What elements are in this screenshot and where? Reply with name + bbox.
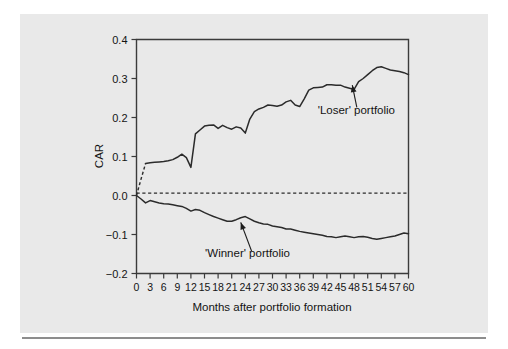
- x-tick-label: 45: [335, 281, 347, 293]
- y-tick-labels: −0.2−0.10.00.10.20.30.4: [106, 34, 128, 280]
- series-group: [137, 67, 409, 239]
- x-tick-label: 15: [199, 281, 211, 293]
- x-tick-label: 54: [375, 281, 387, 293]
- x-tick-label: 51: [362, 281, 374, 293]
- x-tick-label: 33: [280, 281, 292, 293]
- x-tick-label: 60: [403, 281, 415, 293]
- x-tick-label: 18: [212, 281, 224, 293]
- x-tick-label: 0: [134, 281, 140, 293]
- x-tick-label: 57: [389, 281, 401, 293]
- loser-portfolio-line: [146, 67, 409, 168]
- x-tick-label: 6: [161, 281, 167, 293]
- figure-root: −0.2−0.10.00.10.20.30.4 0369121518212427…: [0, 0, 508, 349]
- winner-portfolio-line: [137, 196, 409, 240]
- x-tick-label: 42: [321, 281, 333, 293]
- y-tick-label: 0.0: [112, 190, 127, 202]
- x-tick-label: 36: [294, 281, 306, 293]
- x-axis-title: Months after portfolio formation: [192, 301, 351, 313]
- bottom-rule-divider: [22, 337, 486, 339]
- x-tick-label: 30: [267, 281, 279, 293]
- y-tick-label: −0.1: [106, 229, 128, 241]
- y-tick-label: 0.3: [112, 73, 127, 85]
- y-tick-marks: [132, 40, 137, 274]
- annotation-arrow-head: [241, 222, 246, 230]
- x-tick-label: 9: [174, 281, 180, 293]
- x-tick-label: 24: [239, 281, 251, 293]
- winner-portfolio-label: 'Winner' portfolio: [205, 247, 290, 259]
- x-tick-label: 12: [185, 281, 197, 293]
- y-tick-label: 0.4: [112, 34, 127, 46]
- x-tick-label: 48: [348, 281, 360, 293]
- x-tick-label: 39: [307, 281, 319, 293]
- x-tick-marks: [137, 274, 409, 279]
- loser-portfolio-lead-dashed: [137, 164, 146, 196]
- y-tick-label: −0.2: [106, 268, 128, 280]
- y-tick-label: 0.2: [112, 112, 127, 124]
- x-tick-labels: 03691215182124273033363942454851545760: [134, 281, 415, 293]
- x-tick-label: 27: [253, 281, 265, 293]
- x-tick-label: 21: [226, 281, 238, 293]
- loser-portfolio-label: 'Loser' portfolio: [318, 104, 395, 116]
- x-tick-label: 3: [147, 281, 153, 293]
- series-annotations: 'Loser' portfolio'Winner' portfolio: [205, 85, 395, 259]
- y-axis-title: CAR: [93, 144, 105, 168]
- car-line-chart: −0.2−0.10.00.10.20.30.4 0369121518212427…: [0, 0, 508, 349]
- y-tick-label: 0.1: [112, 151, 127, 163]
